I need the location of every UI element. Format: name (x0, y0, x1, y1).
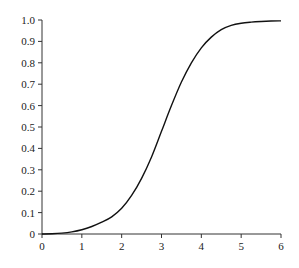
y-tick-label: 0.1 (21, 207, 35, 219)
axes (38, 20, 281, 238)
y-tick-label: 0.8 (21, 57, 35, 69)
x-tick-label: 5 (238, 240, 244, 252)
y-tick-label: 0.4 (21, 142, 35, 154)
tick-labels: 012345600.10.20.30.40.50.60.70.80.91.0 (21, 14, 284, 252)
x-tick-label: 4 (199, 240, 205, 252)
x-tick-label: 1 (79, 240, 85, 252)
y-tick-label: 0 (30, 228, 36, 240)
line-chart: 012345600.10.20.30.40.50.60.70.80.91.0 (0, 0, 299, 268)
y-tick-label: 0.2 (21, 185, 35, 197)
x-tick-label: 2 (119, 240, 125, 252)
y-tick-label: 1.0 (21, 14, 35, 26)
y-tick-label: 0.9 (21, 35, 35, 47)
data-curve (42, 21, 281, 234)
x-tick-label: 0 (39, 240, 45, 252)
y-tick-label: 0.3 (21, 164, 35, 176)
x-tick-label: 6 (278, 240, 284, 252)
y-tick-label: 0.5 (21, 121, 35, 133)
y-tick-label: 0.7 (21, 78, 35, 90)
x-tick-label: 3 (159, 240, 165, 252)
y-tick-label: 0.6 (21, 100, 35, 112)
